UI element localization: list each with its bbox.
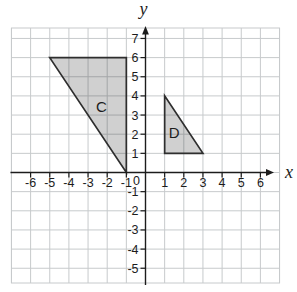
x-tick-label: -2 xyxy=(102,176,113,190)
coordinate-grid: CD-6-5-4-3-2-11234567654321-1-2-3-4-50xy xyxy=(0,0,297,292)
y-tick-label: -4 xyxy=(127,243,138,257)
coordinate-plane-figure: CD-6-5-4-3-2-11234567654321-1-2-3-4-50xy xyxy=(0,0,297,292)
triangle-D-label: D xyxy=(169,124,180,141)
y-tick-label: -5 xyxy=(127,262,138,276)
y-tick-label: 1 xyxy=(132,147,139,161)
y-tick-label: 2 xyxy=(132,128,139,142)
x-tick-label: -6 xyxy=(25,176,36,190)
y-tick-label: 4 xyxy=(132,89,139,103)
figure-background xyxy=(0,0,297,292)
x-axis-name: x xyxy=(284,162,293,182)
x-tick-label: 1 xyxy=(161,176,168,190)
x-tick-label: 5 xyxy=(238,176,245,190)
y-tick-label: -2 xyxy=(127,204,138,218)
x-tick-label: -3 xyxy=(82,176,93,190)
triangle-C-label: C xyxy=(96,98,107,115)
x-tick-label: 6 xyxy=(257,176,264,190)
x-tick-label: -4 xyxy=(63,176,74,190)
y-tick-label: -3 xyxy=(127,223,138,237)
x-tick-label: -5 xyxy=(44,176,55,190)
origin-label: 0 xyxy=(133,174,140,188)
y-tick-label: 6 xyxy=(132,51,139,65)
y-tick-label: 5 xyxy=(132,70,139,84)
x-tick-label: 4 xyxy=(219,176,226,190)
x-tick-label: 2 xyxy=(180,176,187,190)
y-tick-label: 3 xyxy=(132,109,139,123)
x-tick-label: 3 xyxy=(199,176,206,190)
y-axis-name: y xyxy=(138,0,148,19)
y-tick-label: 7 xyxy=(132,32,139,46)
